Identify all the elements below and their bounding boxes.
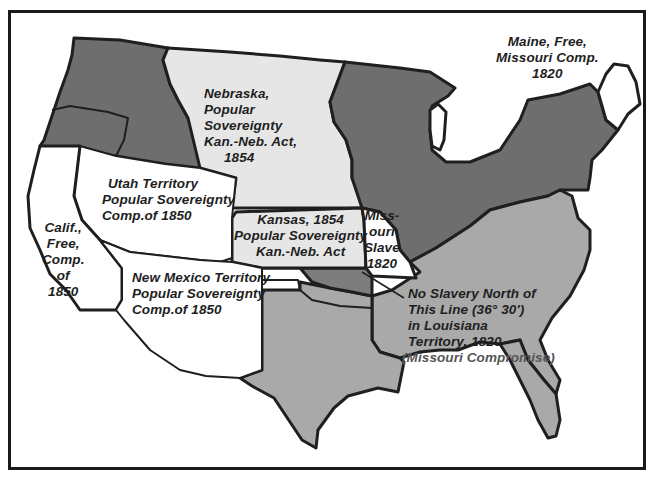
label-line: Popular [204, 102, 297, 118]
label-line: Missouri Comp. [496, 50, 599, 66]
label-subnote: (Missouri Compromise) [402, 350, 555, 366]
label-line: Utah Territory [102, 176, 235, 192]
label-line: Comp. [42, 252, 85, 268]
label-line: This Line (36° 30') [408, 302, 555, 318]
label-line: No Slavery North of [408, 286, 555, 302]
label-line: Popular Sovereignty [234, 228, 367, 244]
label-compromise-line: No Slavery North of This Line (36° 30') … [408, 286, 555, 366]
label-nebraska: Nebraska, Popular Sovereignty Kan.-Neb. … [204, 86, 297, 166]
label-line: of [42, 268, 85, 284]
label-maine: Maine, Free, Missouri Comp. 1820 [496, 34, 599, 82]
label-utah: Utah Territory Popular Sovereignty Comp.… [102, 176, 235, 224]
label-line: Kan.-Neb. Act [234, 244, 367, 260]
label-line: Comp.of 1850 [102, 208, 235, 224]
label-kansas: Kansas, 1854 Popular Sovereignty Kan.-Ne… [234, 212, 367, 260]
label-missouri: Miss- ouri Slave 1820 [364, 208, 400, 272]
label-line: Kan.-Neb. Act, [204, 134, 297, 150]
label-line: Free, [42, 236, 85, 252]
label-line: 1820 [364, 256, 400, 272]
label-line: New Mexico Territory [132, 270, 270, 286]
label-line: Territory, 1820 [408, 334, 555, 350]
label-line: Calif., [42, 220, 85, 236]
label-line: 1854 [204, 150, 297, 166]
label-line: Sovereignty [204, 118, 297, 134]
label-new-mexico: New Mexico Territory Popular Sovereignty… [132, 270, 270, 318]
label-line: Popular Sovereignty [102, 192, 235, 208]
label-line: 1850 [42, 284, 85, 300]
lake-michigan [430, 104, 446, 150]
label-line: Miss- [364, 208, 400, 224]
label-line: 1820 [496, 66, 599, 82]
label-line: Slave [364, 240, 400, 256]
label-line: Maine, Free, [496, 34, 599, 50]
label-line: in Louisiana [408, 318, 555, 334]
label-line: Popular Sovereignty [132, 286, 270, 302]
label-line: Comp.of 1850 [132, 302, 270, 318]
label-line: ouri [364, 224, 400, 240]
label-line: Nebraska, [204, 86, 297, 102]
label-line: Kansas, 1854 [234, 212, 367, 228]
label-california: Calif., Free, Comp. of 1850 [42, 220, 85, 300]
